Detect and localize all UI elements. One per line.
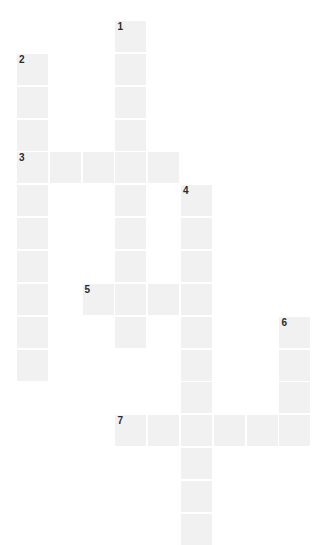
crossword-cell-number: 5: [85, 284, 91, 296]
crossword-cell[interactable]: [115, 185, 146, 216]
crossword-cell[interactable]: 7: [115, 415, 146, 446]
crossword-cell[interactable]: [181, 350, 212, 381]
crossword-cell[interactable]: [148, 152, 179, 183]
crossword-cell[interactable]: [17, 185, 48, 216]
crossword-cell[interactable]: [279, 350, 310, 381]
crossword-cell[interactable]: [181, 284, 212, 315]
crossword-cell[interactable]: [181, 218, 212, 249]
crossword-cell[interactable]: 6: [279, 317, 310, 348]
crossword-cell[interactable]: [115, 251, 146, 282]
crossword-cell[interactable]: [247, 415, 278, 446]
crossword-cell[interactable]: [115, 54, 146, 85]
crossword-cell-number: 1: [117, 21, 123, 33]
crossword-cell[interactable]: [181, 251, 212, 282]
crossword-cell[interactable]: [17, 317, 48, 348]
crossword-cell[interactable]: 5: [83, 284, 114, 315]
crossword-cell[interactable]: [181, 514, 212, 545]
crossword-cell[interactable]: [115, 120, 146, 151]
crossword-cell[interactable]: [181, 448, 212, 479]
crossword-cell[interactable]: [148, 284, 179, 315]
crossword-cell[interactable]: 4: [181, 185, 212, 216]
crossword-cell[interactable]: [115, 87, 146, 118]
crossword-cell[interactable]: 3: [17, 152, 48, 183]
crossword-cell[interactable]: [279, 382, 310, 413]
crossword-cell[interactable]: [148, 415, 179, 446]
crossword-cell-number: 6: [281, 317, 287, 329]
crossword-cell-number: 3: [19, 152, 25, 164]
crossword-cell[interactable]: [17, 218, 48, 249]
crossword-cell[interactable]: [17, 251, 48, 282]
crossword-cell[interactable]: [181, 415, 212, 446]
crossword-cell[interactable]: [17, 87, 48, 118]
crossword-cell[interactable]: [181, 317, 212, 348]
crossword-cell[interactable]: [115, 284, 146, 315]
crossword-cell[interactable]: [115, 218, 146, 249]
crossword-cell[interactable]: [17, 120, 48, 151]
crossword-cell-number: 2: [19, 54, 25, 66]
crossword-cell[interactable]: 2: [17, 54, 48, 85]
crossword-cell[interactable]: [17, 284, 48, 315]
crossword-cell[interactable]: [214, 415, 245, 446]
crossword-cell[interactable]: [17, 350, 48, 381]
crossword-cell[interactable]: [115, 152, 146, 183]
crossword-cell[interactable]: [50, 152, 81, 183]
crossword-cell-number: 7: [117, 415, 123, 427]
crossword-cell[interactable]: [181, 382, 212, 413]
crossword-cell[interactable]: [279, 415, 310, 446]
crossword-cell-number: 4: [183, 185, 189, 197]
crossword-cell[interactable]: [83, 152, 114, 183]
crossword-cell[interactable]: [181, 481, 212, 512]
crossword-cell[interactable]: [115, 317, 146, 348]
crossword-cell[interactable]: 1: [115, 21, 146, 52]
